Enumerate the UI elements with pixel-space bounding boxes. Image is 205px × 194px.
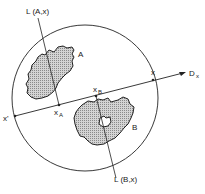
label-point-xa-sub: A <box>59 112 63 118</box>
label-region-a: A <box>78 50 84 59</box>
region-a-shape <box>26 46 74 99</box>
label-direction: D <box>189 69 195 78</box>
label-line-b: L (B,x) <box>114 175 138 184</box>
point-xb <box>95 95 98 98</box>
label-region-b: B <box>132 123 137 132</box>
label-point-x-prime: x' <box>3 114 9 123</box>
point-x-prime <box>14 115 17 118</box>
region-b-shape <box>74 97 134 145</box>
label-direction-sub: x <box>196 73 199 79</box>
label-point-xb: x <box>93 85 97 94</box>
label-point-xb-sub: B <box>98 89 102 95</box>
point-xa <box>58 104 61 107</box>
point-x <box>152 79 155 82</box>
label-point-x: x <box>151 68 155 77</box>
diagram-canvas: L (A,x) A B L (B,x) x x' x A x B D x <box>0 0 205 194</box>
arrowhead-icon <box>179 72 186 76</box>
label-point-xa: x <box>54 108 58 117</box>
label-line-a: L (A,x) <box>26 7 50 16</box>
